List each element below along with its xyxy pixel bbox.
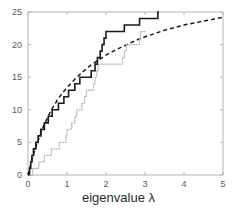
figure-container: 0510152025 012345 eigenvalue λ — [0, 0, 237, 213]
series-theoretical-mean-dashed — [28, 17, 223, 175]
series-lower-counting-dotted — [30, 32, 145, 175]
y-tick-label: 15 — [0, 72, 22, 82]
y-tick-label: 20 — [0, 40, 22, 50]
axis-tick-marks — [28, 12, 223, 175]
axes-lines — [28, 12, 223, 175]
x-tick-label: 2 — [103, 179, 108, 189]
x-tick-label: 5 — [220, 179, 225, 189]
y-tick-label: 0 — [0, 170, 22, 180]
chart-plot — [0, 0, 237, 213]
y-tick-label: 25 — [0, 7, 22, 17]
y-tick-label: 5 — [0, 137, 22, 147]
x-tick-label: 1 — [64, 179, 69, 189]
x-tick-label: 3 — [142, 179, 147, 189]
x-axis-title: eigenvalue λ — [0, 190, 237, 205]
y-tick-label: 10 — [0, 105, 22, 115]
data-series-group — [28, 12, 223, 175]
x-tick-label: 4 — [181, 179, 186, 189]
series-empirical-counting-solid — [28, 12, 159, 175]
x-tick-label: 0 — [25, 179, 30, 189]
